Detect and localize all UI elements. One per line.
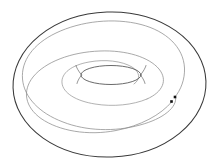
spiral-orbit-plot — [0, 0, 220, 168]
plot-background — [0, 0, 220, 168]
marker-end-point-outer — [174, 96, 177, 99]
figure-root — [0, 0, 220, 168]
marker-end-point-inner — [170, 100, 173, 103]
